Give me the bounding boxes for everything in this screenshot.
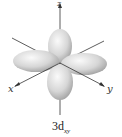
z-axis-label: z (57, 0, 61, 8)
x-axis-label: x (8, 84, 14, 94)
orbital-title: 3dxy (0, 119, 122, 134)
lobe-bottom (47, 64, 73, 100)
orbital-graphic (0, 0, 122, 137)
y-axis-label: y (107, 84, 113, 94)
